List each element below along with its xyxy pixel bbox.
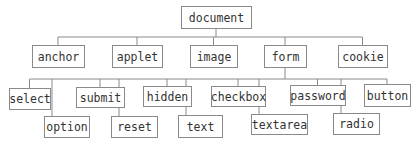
node-label: form (272, 50, 300, 64)
node-label: checkbox (211, 90, 266, 104)
node-label: applet (117, 50, 159, 64)
node-document: document (182, 7, 252, 29)
node-label: password (290, 89, 345, 103)
node-form: form (265, 46, 307, 68)
node-cookie: cookie (339, 46, 388, 68)
dom-hierarchy-diagram: documentanchorappletimageformcookieselec… (0, 0, 416, 145)
node-label: text (187, 120, 215, 134)
node-label: radio (339, 117, 374, 131)
node-label: reset (117, 120, 152, 134)
node-label: anchor (38, 50, 80, 64)
node-submit: submit (77, 88, 125, 108)
node-label: hidden (147, 90, 189, 104)
node-option: option (45, 117, 90, 138)
node-label: option (46, 120, 88, 134)
node-textarea: textarea (252, 115, 308, 135)
node-select: select (9, 89, 51, 110)
node-label: document (189, 11, 244, 25)
node-boxes: documentanchorappletimageformcookieselec… (9, 7, 410, 138)
node-button: button (365, 85, 411, 107)
node-text: text (179, 116, 223, 138)
node-applet: applet (113, 46, 163, 68)
node-label: select (9, 92, 51, 106)
node-label: button (367, 89, 409, 103)
node-hidden: hidden (144, 87, 192, 107)
node-radio: radio (334, 114, 380, 135)
node-image: image (191, 46, 238, 68)
node-anchor: anchor (33, 46, 85, 68)
node-label: image (197, 50, 232, 64)
node-checkbox: checkbox (211, 87, 266, 107)
node-label: cookie (342, 50, 384, 64)
node-reset: reset (112, 117, 158, 138)
node-label: textarea (252, 118, 307, 132)
node-label: submit (80, 91, 122, 105)
node-password: password (290, 86, 345, 106)
